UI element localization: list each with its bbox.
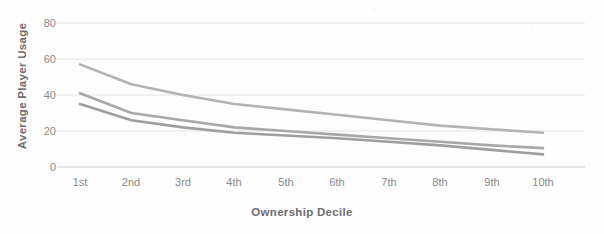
chart-figure: Average Player Usage Ownership Decile 80… <box>0 0 604 234</box>
series-lines <box>80 64 543 154</box>
series-line-2 <box>80 93 543 148</box>
plot-area <box>0 0 604 234</box>
